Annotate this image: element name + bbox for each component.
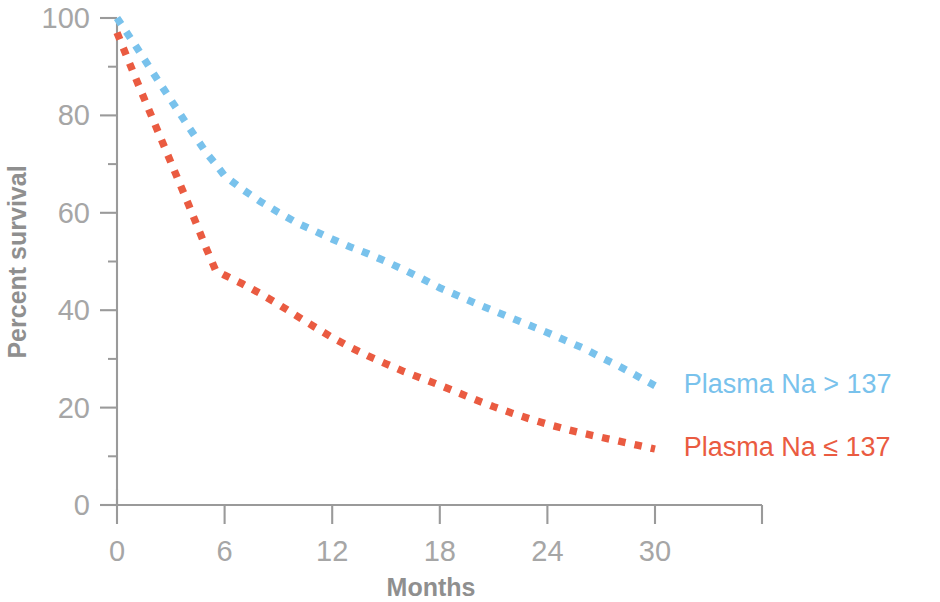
x-tick-label-18: 18 bbox=[424, 535, 456, 567]
y-tick-label-40: 40 bbox=[58, 294, 90, 326]
y-tick-label-80: 80 bbox=[58, 99, 90, 131]
y-tick-label-0: 0 bbox=[74, 489, 90, 521]
data-series-group bbox=[117, 18, 655, 449]
x-axis-major-ticks bbox=[117, 489, 655, 524]
series-label-red: Plasma Na ≤ 137 bbox=[684, 432, 891, 462]
x-axis-group: 0612182430 bbox=[100, 489, 762, 567]
x-axis-tick-labels: 0612182430 bbox=[109, 535, 671, 567]
series-line-blue bbox=[117, 18, 655, 386]
y-tick-label-100: 100 bbox=[42, 2, 90, 34]
y-tick-label-60: 60 bbox=[58, 197, 90, 229]
x-tick-label-24: 24 bbox=[531, 535, 563, 567]
y-axis-minor-ticks bbox=[108, 67, 117, 457]
survival-chart: 020406080100 0612182430 Plasma Na > 137P… bbox=[0, 0, 940, 602]
y-tick-label-20: 20 bbox=[58, 392, 90, 424]
y-axis-title: Percent survival bbox=[3, 165, 31, 358]
series-label-blue: Plasma Na > 137 bbox=[684, 369, 892, 399]
x-tick-label-0: 0 bbox=[109, 535, 125, 567]
y-axis-tick-labels: 020406080100 bbox=[42, 2, 90, 521]
x-axis-title: Months bbox=[387, 573, 476, 601]
chart-canvas: 020406080100 0612182430 Plasma Na > 137P… bbox=[0, 0, 940, 602]
series-line-red bbox=[117, 33, 655, 449]
x-tick-label-6: 6 bbox=[217, 535, 233, 567]
y-axis-group: 020406080100 bbox=[42, 2, 117, 521]
series-labels-group: Plasma Na > 137Plasma Na ≤ 137 bbox=[684, 369, 892, 462]
x-tick-label-12: 12 bbox=[316, 535, 348, 567]
x-tick-label-30: 30 bbox=[639, 535, 671, 567]
